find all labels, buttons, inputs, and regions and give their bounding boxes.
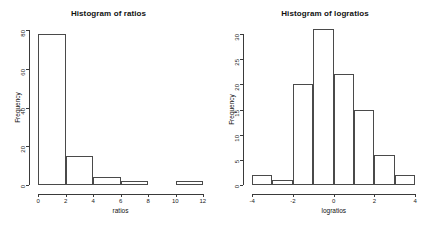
y-axis-line: [243, 34, 244, 185]
y-axis-label: Frequency: [228, 89, 235, 129]
x-axis-tick-label: 10: [172, 198, 179, 204]
x-axis-tick-label: 8: [147, 198, 150, 204]
histogram-bar: [395, 175, 415, 185]
histogram-bar: [374, 155, 394, 185]
y-axis-tick-label: 15: [234, 110, 240, 124]
x-axis-label: ratios: [109, 207, 133, 214]
histogram-bar: [93, 177, 121, 185]
x-axis-tick-label: 0: [332, 198, 335, 204]
x-axis-tick-label: 0: [37, 198, 40, 204]
histogram-bar: [66, 156, 94, 185]
histogram-bar: [313, 29, 333, 185]
x-axis-label: logratios: [322, 207, 346, 214]
x-axis-tick: [334, 194, 335, 197]
y-axis-tick-label: 60: [20, 69, 26, 83]
y-axis-tick-label: 25: [234, 59, 240, 73]
x-axis-tick-label: 4: [414, 198, 417, 204]
y-axis-tick: [26, 30, 29, 31]
y-axis-tick: [240, 84, 243, 85]
histogram-bar: [121, 181, 149, 185]
x-axis-tick: [374, 194, 375, 197]
x-axis-tick-label: -4: [250, 198, 255, 204]
histogram-bar: [252, 175, 272, 185]
y-axis-tick-label: 40: [20, 108, 26, 122]
y-axis-tick: [240, 34, 243, 35]
y-axis-tick-label: 0: [20, 185, 26, 199]
y-axis-tick-label: 80: [20, 30, 26, 44]
histogram-panel-ratios: Histogram of ratios 024681012ratios02040…: [0, 0, 217, 229]
x-axis-tick-label: 4: [92, 198, 95, 204]
y-axis-label: Frequency: [14, 87, 21, 127]
y-axis-tick-label: 5: [234, 160, 240, 174]
y-axis-tick: [26, 108, 29, 109]
x-axis-tick: [38, 194, 39, 197]
y-axis-tick: [26, 69, 29, 70]
y-axis-tick-label: 20: [234, 84, 240, 98]
y-axis-tick: [240, 185, 243, 186]
x-axis-tick: [121, 194, 122, 197]
y-axis-tick-label: 0: [234, 185, 240, 199]
y-axis-tick-label: 20: [20, 146, 26, 160]
y-axis-tick: [240, 110, 243, 111]
histogram-bar: [334, 74, 354, 185]
y-axis-line: [29, 30, 30, 185]
figure-canvas: Histogram of ratios 024681012ratios02040…: [0, 0, 433, 229]
y-axis-tick: [240, 160, 243, 161]
x-axis-tick: [93, 194, 94, 197]
histogram-panel-logratios: Histogram of logratios -4-2024logratios0…: [217, 0, 433, 229]
y-axis-tick: [240, 59, 243, 60]
histogram-bar: [176, 181, 204, 185]
x-axis-tick-label: 2: [64, 198, 67, 204]
x-axis-tick: [148, 194, 149, 197]
histogram-bar: [38, 34, 66, 185]
histogram-bar: [354, 110, 374, 185]
y-axis-tick: [26, 146, 29, 147]
y-axis-tick: [240, 135, 243, 136]
x-axis-tick-label: 12: [200, 198, 207, 204]
histogram-bar: [293, 84, 313, 185]
y-axis-tick: [26, 185, 29, 186]
y-axis-tick-label: 30: [234, 34, 240, 48]
x-axis-tick-label: 6: [119, 198, 122, 204]
x-axis-tick: [252, 194, 253, 197]
x-axis-tick-label: -2: [290, 198, 295, 204]
plot-area-ratios: 024681012ratios020406080Frequency: [0, 0, 217, 229]
x-axis-tick: [203, 194, 204, 197]
x-axis-tick: [415, 194, 416, 197]
y-axis-tick-label: 10: [234, 135, 240, 149]
plot-area-logratios: -4-2024logratios051015202530Frequency: [217, 0, 433, 229]
x-axis-tick: [293, 194, 294, 197]
x-axis-tick-label: 2: [373, 198, 376, 204]
x-axis-tick: [176, 194, 177, 197]
histogram-bar: [272, 180, 292, 185]
x-axis-tick: [66, 194, 67, 197]
